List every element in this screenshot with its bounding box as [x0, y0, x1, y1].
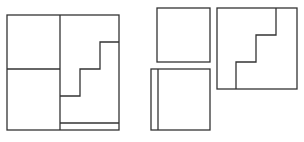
- piece-square-with-strip: [151, 69, 210, 130]
- composite-outer-square: [7, 15, 119, 130]
- piece-stair-square: [217, 8, 297, 89]
- composite-stair-line: [60, 42, 119, 96]
- piece-small-square: [157, 8, 210, 62]
- separate-pieces: [151, 8, 297, 130]
- piece-stair-line: [236, 8, 276, 89]
- puzzle-diagram: [0, 0, 304, 142]
- composite-figure: [7, 15, 119, 130]
